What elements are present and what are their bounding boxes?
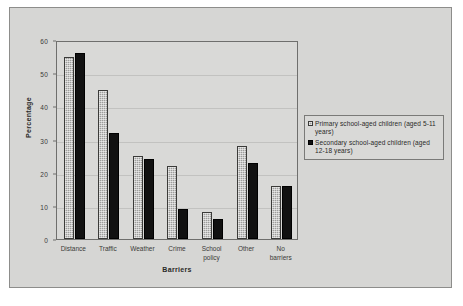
bar-primary — [271, 186, 281, 239]
bar-secondary — [282, 186, 292, 239]
bar-primary — [202, 212, 212, 239]
legend-item[interactable]: Secondary school-aged children (aged 12-… — [308, 139, 440, 155]
y-axis-title: Percentage — [25, 58, 32, 178]
x-axis-title: Barriers — [56, 266, 298, 273]
plot-area — [56, 41, 298, 240]
legend-item[interactable]: Primary school-aged children (aged 5-11 … — [308, 120, 440, 136]
bar-secondary — [213, 219, 223, 239]
legend-swatch-secondary-icon — [308, 140, 313, 145]
y-axis-tick-label: 0 — [10, 237, 48, 244]
bar-group — [57, 42, 92, 239]
bar-group — [161, 42, 196, 239]
bar-group — [195, 42, 230, 239]
bar-secondary — [144, 159, 154, 239]
bar-group — [264, 42, 299, 239]
y-axis-tick-label: 10 — [10, 203, 48, 210]
bar-secondary — [178, 209, 188, 239]
y-axis-labels: 0102030405060 — [10, 8, 54, 289]
legend-label: Primary school-aged children (aged 5-11 … — [315, 120, 440, 136]
x-axis-tick-label: Nobarriers — [258, 244, 304, 262]
bar-primary — [237, 146, 247, 239]
chart-figure: 0102030405060 Percentage DistanceTraffic… — [9, 7, 452, 288]
chart-legend: Primary school-aged children (aged 5-11 … — [304, 115, 444, 160]
bar-primary — [133, 156, 143, 239]
bar-secondary — [248, 163, 258, 239]
bar-group — [92, 42, 127, 239]
bar-group — [126, 42, 161, 239]
y-axis-tick-label: 60 — [10, 38, 48, 45]
bar-group — [230, 42, 265, 239]
x-axis-tick-label-line: No — [258, 244, 304, 253]
x-axis-tick-label-line: barriers — [258, 253, 304, 262]
bar-secondary — [109, 133, 119, 239]
legend-swatch-primary-icon — [308, 121, 313, 126]
bar-primary — [98, 90, 108, 239]
bar-primary — [167, 166, 177, 239]
legend-label: Secondary school-aged children (aged 12-… — [315, 139, 440, 155]
x-axis-tick-label-line: policy — [189, 253, 235, 262]
bar-primary — [64, 57, 74, 239]
bar-secondary — [75, 53, 85, 239]
